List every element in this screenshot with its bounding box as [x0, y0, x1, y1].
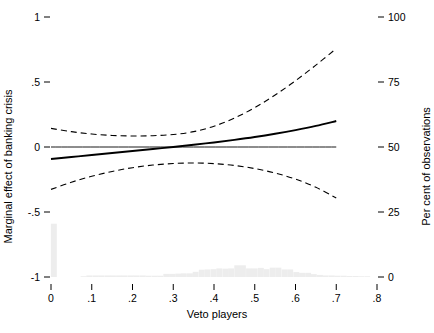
histogram-bar: [211, 269, 217, 277]
y-axis-right-title: Per cent of observations: [418, 0, 434, 333]
histogram-bar: [134, 275, 140, 277]
histogram-bar: [116, 275, 122, 277]
series-lines: [51, 49, 336, 198]
histogram-bar: [329, 275, 335, 277]
x-axis-title: Veto players: [0, 308, 434, 320]
histogram-bar: [163, 274, 169, 277]
tick-label: .5: [31, 76, 40, 88]
axis-ticks: [44, 17, 384, 290]
histogram-bar: [122, 275, 128, 277]
histogram-bar: [140, 275, 146, 277]
histogram-bar: [346, 276, 352, 277]
histogram-bar: [293, 272, 299, 277]
histogram-bar: [98, 275, 104, 277]
plot-area: 0.1.2.3.4.5.6.7.8-1-.50.510255075100: [0, 0, 434, 333]
histogram-bar: [157, 276, 163, 277]
series-line: [51, 49, 336, 136]
histogram-bar: [104, 275, 110, 277]
histogram-bar: [246, 268, 252, 277]
histogram-bar: [282, 269, 288, 277]
histogram-bar: [181, 273, 187, 277]
histogram-bar: [240, 265, 246, 277]
histogram-bar: [341, 276, 347, 277]
tick-label: .2: [128, 292, 137, 304]
tick-label: 0: [388, 271, 394, 283]
histogram-bar: [145, 276, 151, 277]
histogram-bar: [305, 273, 311, 277]
axis-tick-labels: 0.1.2.3.4.5.6.7.8-1-.50.510255075100: [28, 11, 406, 305]
histogram-bar: [193, 272, 199, 277]
histogram-bar: [264, 269, 270, 277]
histogram-bar: [317, 275, 323, 277]
tick-label: -1: [31, 271, 40, 283]
tick-label: 100: [388, 11, 406, 23]
tick-label: 0: [34, 141, 40, 153]
histogram-bar: [335, 276, 341, 277]
histogram-bar: [175, 274, 181, 277]
histogram-bars: [51, 224, 370, 277]
tick-label: .7: [332, 292, 341, 304]
tick-label: .6: [291, 292, 300, 304]
histogram-bar: [299, 273, 305, 277]
histogram-bar: [258, 268, 264, 277]
histogram-bar: [205, 269, 211, 277]
histogram-bar: [128, 275, 134, 277]
histogram-bar: [252, 268, 258, 277]
tick-label: 75: [388, 76, 400, 88]
tick-label: 50: [388, 141, 400, 153]
histogram-bar: [352, 276, 358, 277]
histogram-bar: [270, 268, 276, 277]
histogram-bar: [199, 270, 205, 277]
tick-label: .8: [373, 292, 382, 304]
series-line: [51, 121, 336, 159]
histogram-bar: [275, 268, 281, 277]
tick-label: .4: [210, 292, 219, 304]
histogram-bar: [169, 274, 175, 277]
histogram-bar: [228, 268, 234, 277]
histogram-bar: [187, 273, 193, 277]
histogram-bar: [86, 275, 92, 277]
tick-label: .3: [169, 292, 178, 304]
histogram-bar: [222, 269, 228, 277]
histogram-bar: [287, 269, 293, 277]
tick-label: -.5: [28, 206, 40, 218]
histogram-bar: [234, 265, 240, 277]
tick-label: .1: [87, 292, 96, 304]
histogram-bar: [364, 276, 370, 277]
histogram-bar: [110, 275, 116, 277]
chart-figure: 0.1.2.3.4.5.6.7.8-1-.50.510255075100 Mar…: [0, 0, 434, 333]
histogram-bar: [92, 275, 98, 277]
histogram-bar: [51, 224, 57, 277]
tick-label: 1: [34, 11, 40, 23]
tick-label: 0: [48, 292, 54, 304]
histogram-bar: [323, 275, 329, 277]
tick-label: 25: [388, 206, 400, 218]
histogram-bar: [358, 276, 364, 277]
y-axis-left-title: Marginal effect of banking crisis: [0, 0, 16, 333]
histogram-bar: [311, 274, 317, 277]
histogram-bar: [152, 276, 158, 277]
series-line: [51, 163, 336, 198]
histogram-bar: [216, 268, 222, 277]
tick-label: .5: [250, 292, 259, 304]
histogram-bar: [81, 276, 87, 277]
